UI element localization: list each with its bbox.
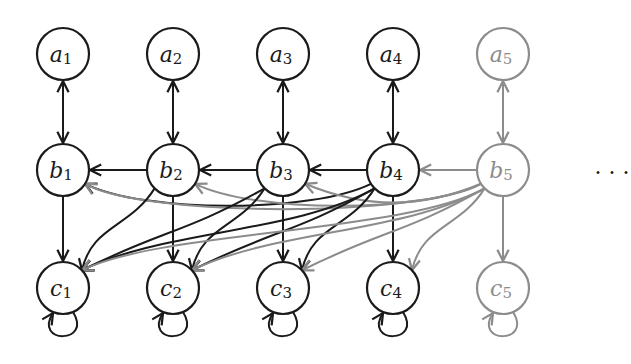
node-c2: c2 bbox=[147, 262, 199, 314]
self-loop-c2 bbox=[159, 312, 187, 336]
dependency-graph-diagram: a1a2a3a4a5b1b2b3b4b5c1c2c3c4c5 · · · bbox=[0, 0, 631, 364]
node-a5: a5 bbox=[477, 28, 529, 80]
node-c5: c5 bbox=[477, 262, 529, 314]
node-b1: b1 bbox=[37, 144, 89, 196]
node-a3: a3 bbox=[257, 28, 309, 80]
node-c4: c4 bbox=[367, 262, 419, 314]
node-c1: c1 bbox=[37, 262, 89, 314]
continuation-ellipsis: · · · bbox=[595, 160, 630, 185]
node-a4: a4 bbox=[367, 28, 419, 80]
node-a1: a1 bbox=[37, 28, 89, 80]
self-loop-c1 bbox=[49, 312, 77, 336]
node-c3: c3 bbox=[257, 262, 309, 314]
node-b2: b2 bbox=[147, 144, 199, 196]
self-loop-c4 bbox=[379, 312, 407, 336]
node-b3: b3 bbox=[257, 144, 309, 196]
node-b4: b4 bbox=[367, 144, 419, 196]
node-b5: b5 bbox=[477, 144, 529, 196]
self-loop-c5 bbox=[489, 312, 517, 336]
self-loop-c3 bbox=[269, 312, 297, 336]
node-a2: a2 bbox=[147, 28, 199, 80]
